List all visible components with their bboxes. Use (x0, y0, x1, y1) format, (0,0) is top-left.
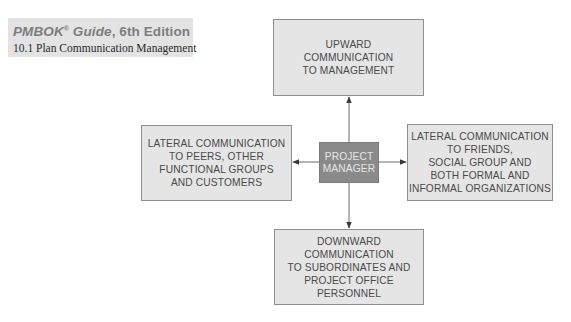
banner-title-guide: Guide (69, 24, 112, 39)
downward-communication-label: DOWNWARD COMMUNICATION TO SUBORDINATES A… (287, 235, 410, 300)
lateral-peers-node: LATERAL COMMUNICATION TO PEERS, OTHER FU… (141, 125, 292, 201)
banner-title: PMBOK® Guide, 6th Edition (13, 21, 193, 40)
lateral-friends-label: LATERAL COMMUNICATION TO FRIENDS, SOCIAL… (409, 130, 551, 195)
header-banner: PMBOK® Guide, 6th Edition 10.1 Plan Comm… (8, 18, 193, 57)
banner-subtitle: 10.1 Plan Communication Management (13, 41, 193, 56)
banner-title-edition: , 6th Edition (112, 24, 191, 39)
lateral-friends-node: LATERAL COMMUNICATION TO FRIENDS, SOCIAL… (407, 124, 553, 201)
upward-communication-label: UPWARD COMMUNICATION TO MANAGEMENT (303, 38, 395, 77)
project-manager-node: PROJECT MANAGER (319, 142, 379, 183)
upward-communication-node: UPWARD COMMUNICATION TO MANAGEMENT (273, 19, 424, 96)
banner-title-pmbok: PMBOK (13, 24, 64, 39)
lateral-peers-label: LATERAL COMMUNICATION TO PEERS, OTHER FU… (148, 137, 286, 189)
downward-communication-node: DOWNWARD COMMUNICATION TO SUBORDINATES A… (274, 229, 424, 305)
project-manager-label: PROJECT MANAGER (323, 151, 376, 175)
